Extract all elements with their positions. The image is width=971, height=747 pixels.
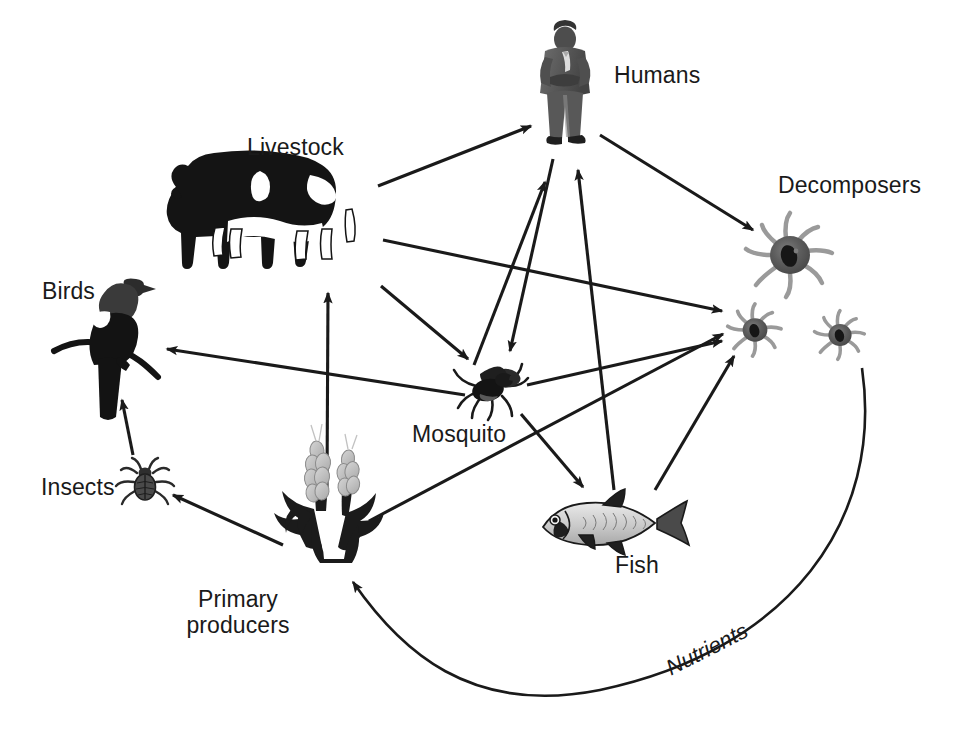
node-label-fish: Fish [615,552,659,578]
beetle-icon [116,458,174,504]
link-mosquito-to-birds [167,349,465,395]
link-livestock-to-mosquito [381,286,468,359]
link-mosquito-to-decomposers [527,341,722,385]
link-humans-to-decomposers [600,135,753,230]
link-fish-to-decomposers [655,356,734,490]
node-label-insects: Insects [41,474,115,500]
link-livestock-to-decomposers [383,240,722,311]
food-web-canvas [0,0,971,747]
node-label-birds: Birds [42,278,95,304]
node-label-humans: Humans [614,62,700,88]
link-insects-to-birds [122,400,133,455]
node-label-livestock: Livestock [247,134,344,160]
node-label-primary-producers: Primary producers [163,586,313,639]
cropped-caption-ghost [112,726,792,738]
food-web-diagram: Humans Livestock Birds Insects Primary p… [0,0,971,747]
wheat-grass-icon [274,424,384,563]
businessman-figure-icon [540,20,590,145]
fish-icon [543,489,689,555]
amoeba-microbe-icon [728,213,865,359]
link-producers-to-insects [173,495,283,545]
node-label-decomposers: Decomposers [778,172,921,198]
link-mosquito-to-humans [474,182,545,365]
link-fish-to-humans [578,170,614,490]
node-label-mosquito: Mosquito [412,421,506,447]
mosquito-icon [454,364,528,420]
link-livestock-to-humans [378,126,531,186]
dairy-cow-icon [167,151,355,270]
